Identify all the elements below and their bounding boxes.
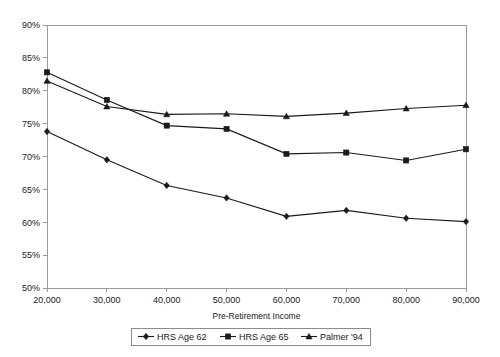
legend-label: HRS Age 62 — [157, 332, 207, 342]
y-tick-label: 70% — [22, 152, 40, 162]
y-tick-label: 85% — [22, 53, 40, 63]
x-axis-title: Pre-Retirement Income — [213, 311, 301, 321]
data-point-marker — [224, 126, 229, 131]
data-point-marker — [104, 157, 109, 163]
data-point-marker — [404, 158, 409, 163]
plot-border — [47, 25, 466, 288]
data-point-marker — [44, 78, 50, 84]
legend-marker-square — [225, 334, 230, 339]
series-hrs-age-65 — [44, 70, 468, 163]
x-tick-label: 20,000 — [33, 295, 61, 305]
y-tick-label: 75% — [22, 119, 40, 129]
data-point-marker — [284, 213, 289, 219]
data-point-marker — [164, 182, 169, 188]
chart-container: 50%55%60%65%70%75%80%85%90% 20,00030,000… — [0, 0, 500, 357]
y-tick-label: 65% — [22, 185, 40, 195]
chart-axes — [47, 25, 466, 288]
x-tick-label: 90,000 — [452, 295, 480, 305]
y-tick-label: 60% — [22, 218, 40, 228]
data-point-marker — [224, 195, 229, 201]
x-tick-label: 60,000 — [273, 295, 301, 305]
data-point-marker — [44, 128, 49, 134]
chart-legend: HRS Age 62HRS Age 65Palmer '94 — [131, 328, 370, 345]
y-tick-label: 90% — [22, 20, 40, 30]
line-chart: 50%55%60%65%70%75%80%85%90% 20,00030,000… — [0, 0, 500, 357]
data-point-marker — [344, 150, 349, 155]
y-axis-tick-labels: 50%55%60%65%70%75%80%85%90% — [22, 20, 40, 293]
legend-label: HRS Age 65 — [239, 332, 289, 342]
chart-series — [44, 70, 469, 225]
x-tick-label: 40,000 — [153, 295, 181, 305]
series-line — [47, 72, 466, 160]
legend-label: Palmer '94 — [320, 332, 363, 342]
y-tick-label: 80% — [22, 86, 40, 96]
series-line — [47, 132, 466, 222]
y-tick-label: 50% — [22, 283, 40, 293]
series-hrs-age-62 — [44, 128, 468, 224]
x-tick-label: 30,000 — [93, 295, 121, 305]
x-axis-tick-labels: 20,00030,00040,00050,00060,00070,00080,0… — [33, 295, 480, 305]
data-point-marker — [463, 147, 468, 152]
x-tick-label: 70,000 — [333, 295, 361, 305]
data-point-marker — [44, 70, 49, 75]
data-point-marker — [463, 218, 468, 224]
y-tick-label: 55% — [22, 250, 40, 260]
data-point-marker — [104, 97, 109, 102]
data-point-marker — [403, 215, 408, 221]
axis-lines — [47, 25, 466, 288]
x-tick-label: 80,000 — [392, 295, 420, 305]
data-point-marker — [164, 123, 169, 128]
x-tick-label: 50,000 — [213, 295, 241, 305]
data-point-marker — [344, 207, 349, 213]
data-point-marker — [284, 151, 289, 156]
